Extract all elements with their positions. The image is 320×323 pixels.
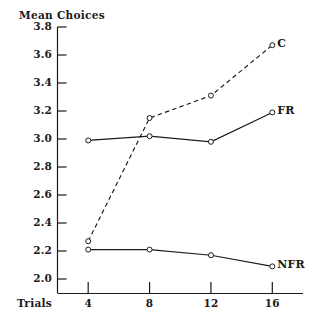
series-label-nfr: NFR: [277, 258, 305, 271]
y-tick-label: 2.6: [22, 188, 52, 200]
y-tick-label: 3.4: [22, 76, 52, 88]
data-point-marker: [147, 116, 152, 121]
series-line-fr: [88, 112, 272, 141]
x-axis-ticks: [88, 282, 272, 293]
axes: [58, 27, 304, 294]
series-line-nfr: [88, 250, 272, 267]
y-tick-label: 3.0: [22, 132, 52, 144]
data-series: [86, 43, 275, 269]
data-point-marker: [147, 134, 152, 139]
x-tick-label: 16: [260, 297, 284, 309]
data-point-marker: [86, 138, 91, 143]
data-point-marker: [208, 139, 213, 144]
x-tick-label: 12: [199, 297, 223, 309]
data-point-marker: [270, 43, 275, 48]
y-tick-label: 2.8: [22, 160, 52, 172]
data-point-marker: [270, 110, 275, 115]
y-axis-ticks: [58, 27, 67, 279]
x-tick-label: 4: [76, 297, 100, 309]
y-tick-label: 2.0: [22, 272, 52, 284]
y-tick-label: 2.4: [22, 216, 52, 228]
y-tick-label: 3.2: [22, 104, 52, 116]
data-point-marker: [270, 264, 275, 269]
data-point-marker: [86, 239, 91, 244]
data-point-marker: [208, 253, 213, 258]
series-line-c: [88, 45, 272, 241]
y-tick-label: 2.2: [22, 244, 52, 256]
series-label-fr: FR: [277, 104, 294, 117]
chart-figure: Mean Choices Trials 3.83.63.43.23.02.82.…: [0, 0, 320, 323]
data-point-marker: [86, 247, 91, 252]
data-point-marker: [147, 247, 152, 252]
data-point-marker: [208, 93, 213, 98]
y-tick-label: 3.8: [22, 20, 52, 32]
x-tick-label: 8: [138, 297, 162, 309]
series-label-c: C: [277, 37, 286, 50]
y-tick-label: 3.6: [22, 48, 52, 60]
